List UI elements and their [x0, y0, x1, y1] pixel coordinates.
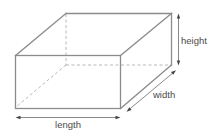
height-arrow-top-icon — [177, 14, 180, 19]
length-arrow-right-icon — [116, 116, 121, 119]
length-arrow-left-icon — [16, 116, 21, 119]
cuboid-diagram: length width height — [0, 0, 220, 138]
height-label: height — [181, 35, 207, 46]
edge-top-left-depth — [16, 14, 67, 56]
height-arrow-bottom-icon — [177, 61, 180, 66]
width-dimension: width — [127, 70, 177, 112]
edge-top-right-depth — [121, 14, 172, 56]
length-label: length — [55, 119, 81, 130]
hidden-edges — [16, 14, 171, 107]
visible-edges — [16, 14, 172, 109]
front-face — [16, 56, 121, 109]
height-dimension: height — [177, 14, 207, 66]
length-dimension: length — [16, 116, 121, 130]
edge-right-bottom-depth — [121, 65, 172, 109]
width-label: width — [152, 89, 175, 100]
hidden-edge-bottom-left-depth — [16, 65, 66, 107]
